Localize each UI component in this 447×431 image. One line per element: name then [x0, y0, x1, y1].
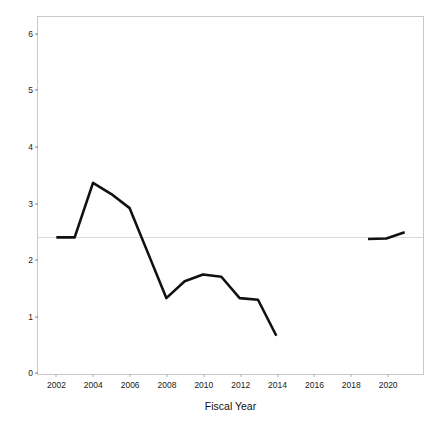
x-tick-mark	[240, 374, 241, 377]
x-tick-mark	[388, 374, 389, 377]
x-tick-mark	[167, 374, 168, 377]
y-tick-mark	[35, 260, 38, 261]
x-tick-mark	[277, 374, 278, 377]
series-lines	[38, 17, 423, 374]
chart-figure: Millions (Constant 2019 USD) 01234562002…	[0, 0, 447, 431]
y-tick-mark	[35, 316, 38, 317]
x-axis-label: Fiscal Year	[37, 400, 424, 412]
x-tick-mark	[203, 374, 204, 377]
x-tick-label: 2008	[158, 380, 177, 390]
series-line	[56, 183, 276, 336]
x-tick-mark	[314, 374, 315, 377]
x-tick-label: 2006	[121, 380, 140, 390]
y-tick-mark	[35, 203, 38, 204]
x-tick-mark	[93, 374, 94, 377]
x-tick-label: 2018	[342, 380, 361, 390]
y-tick-mark	[35, 373, 38, 374]
y-tick-mark	[35, 33, 38, 34]
x-tick-label: 2020	[379, 380, 398, 390]
x-tick-mark	[130, 374, 131, 377]
plot-area: 0123456200220042006200820102012201420162…	[37, 16, 424, 375]
x-tick-label: 2002	[47, 380, 66, 390]
y-tick-mark	[35, 147, 38, 148]
series-line	[368, 232, 405, 239]
x-tick-label: 2014	[268, 380, 287, 390]
x-tick-mark	[351, 374, 352, 377]
x-tick-mark	[56, 374, 57, 377]
x-tick-label: 2016	[305, 380, 324, 390]
x-tick-label: 2004	[84, 380, 103, 390]
y-tick-mark	[35, 90, 38, 91]
x-tick-label: 2012	[231, 380, 250, 390]
x-tick-label: 2010	[194, 380, 213, 390]
